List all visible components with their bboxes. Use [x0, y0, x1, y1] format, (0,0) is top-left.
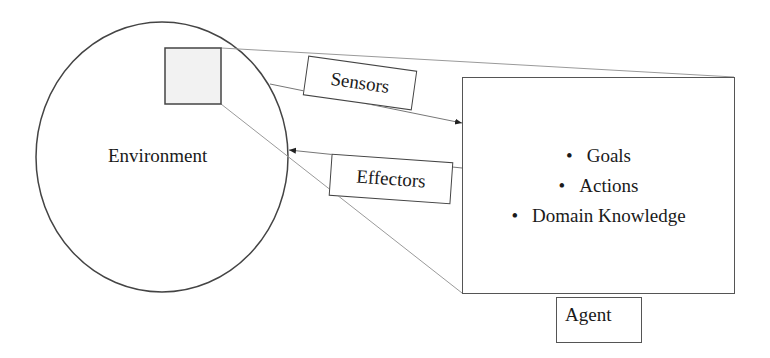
effectors-box: Effectors: [329, 154, 454, 204]
agent-item-actions: Actions: [511, 171, 685, 201]
agent-in-environment-square: [165, 48, 221, 104]
agent-label: Agent: [556, 297, 642, 343]
agent-components-list: Goals Actions Domain Knowledge: [511, 141, 685, 231]
agent-item-domain-knowledge: Domain Knowledge: [511, 201, 685, 231]
agent-box: Goals Actions Domain Knowledge: [462, 77, 735, 294]
sensors-label: Sensors: [329, 68, 391, 98]
environment-label: Environment: [108, 145, 207, 167]
agent-item-goals: Goals: [511, 141, 685, 171]
effectors-label: Effectors: [356, 166, 427, 193]
projection-line-top: [221, 48, 734, 77]
